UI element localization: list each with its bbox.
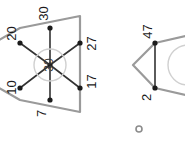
node-label-30: 30 [36,6,51,20]
small-gray-dot [136,126,142,132]
diagram-vector-layer [0,0,185,145]
node-label-27: 27 [84,36,99,50]
node-dot-27 [77,40,82,45]
node-label-47: 47 [140,24,155,38]
node-label-20: 20 [4,26,19,40]
node-label-10: 10 [4,80,19,94]
node-dot-20 [17,40,22,45]
node-dot-30 [47,25,52,30]
hub-label: 30 [42,58,56,71]
node-dot-2 [152,85,157,90]
node-label-7: 7 [34,110,49,117]
diagram-canvas: 20 30 27 17 7 10 30 47 2 [0,0,185,145]
node-dot-17 [77,85,82,90]
right-figure-group [133,35,185,96]
node-dot-47 [152,40,157,45]
node-label-17: 17 [84,74,99,88]
node-dot-7 [47,97,52,102]
node-label-2: 2 [139,94,154,101]
right-hub-circle [168,45,185,85]
right-figure-outline [133,35,185,96]
